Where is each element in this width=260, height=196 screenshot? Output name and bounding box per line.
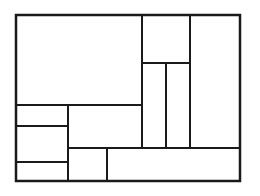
region-J (68, 148, 107, 181)
region-H (16, 126, 68, 162)
region-E (166, 63, 190, 148)
region-B (142, 15, 190, 63)
region-F (16, 105, 68, 126)
region-I (16, 162, 68, 181)
region-G (68, 105, 142, 148)
region-K (107, 148, 240, 181)
region-A (16, 15, 142, 105)
partition-diagram (0, 0, 260, 196)
region-D (142, 63, 166, 148)
region-C (190, 15, 240, 148)
